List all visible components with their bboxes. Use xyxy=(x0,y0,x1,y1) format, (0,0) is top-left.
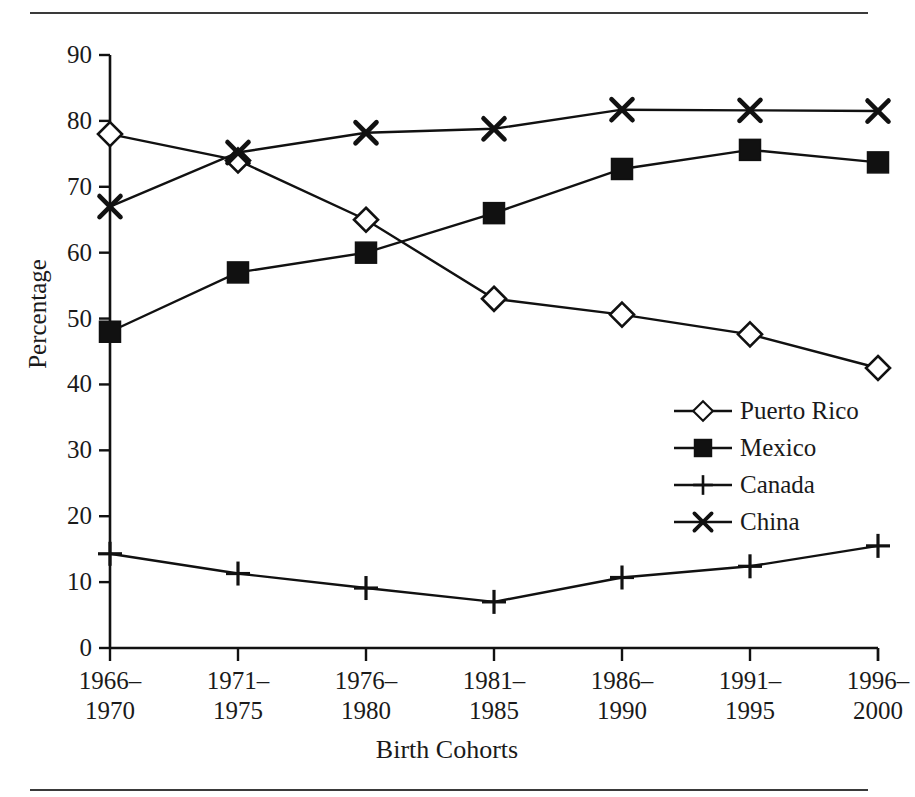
legend-marker-filled-square-icon xyxy=(672,433,734,463)
y-tick-label: 10 xyxy=(67,569,92,594)
marker-filled-square xyxy=(868,152,889,173)
x-category-label-line: 1991– xyxy=(690,666,810,696)
marker-plus xyxy=(610,565,634,589)
x-category-label: 1986–1990 xyxy=(562,666,682,725)
legend-marker-plus-icon xyxy=(672,470,734,500)
marker-open-diamond xyxy=(738,322,762,346)
marker-filled-square xyxy=(484,203,505,224)
marker-open-diamond xyxy=(693,401,713,421)
y-tick-label: 40 xyxy=(67,371,92,396)
marker-plus xyxy=(226,562,250,586)
x-category-label-line: 1996– xyxy=(818,666,915,696)
marker-filled-square xyxy=(228,262,249,283)
x-category-label: 1976–1980 xyxy=(306,666,426,725)
marker-plus xyxy=(354,576,378,600)
y-tick-label: 0 xyxy=(80,635,93,660)
x-category-label: 1966–1970 xyxy=(50,666,170,725)
legend-item-mexico[interactable]: Mexico xyxy=(672,429,859,466)
legend-label: Canada xyxy=(734,471,815,499)
x-category-label-line: 1990 xyxy=(562,696,682,726)
x-category-label: 1991–1995 xyxy=(690,666,810,725)
legend-item-puerto-rico[interactable]: Puerto Rico xyxy=(672,392,859,429)
series-line xyxy=(110,110,878,207)
series-china xyxy=(100,99,889,217)
x-category-label-line: 1975 xyxy=(178,696,298,726)
y-tick-label: 90 xyxy=(67,42,92,67)
marker-filled-square xyxy=(740,139,761,160)
y-axis-title: Percentage xyxy=(24,214,52,414)
marker-filled-square xyxy=(100,321,121,342)
chart-legend: Puerto RicoMexicoCanadaChina xyxy=(672,392,859,540)
marker-open-diamond xyxy=(482,287,506,311)
x-category-label-line: 1970 xyxy=(50,696,170,726)
marker-plus xyxy=(866,534,890,558)
y-tick-label: 50 xyxy=(67,306,92,331)
x-category-label: 1981–1985 xyxy=(434,666,554,725)
x-category-label: 1996–2000 xyxy=(818,666,915,725)
x-category-label-line: 1985 xyxy=(434,696,554,726)
marker-filled-square xyxy=(694,439,711,456)
x-category-label-line: 1995 xyxy=(690,696,810,726)
x-category-label-line: 1971– xyxy=(178,666,298,696)
marker-plus xyxy=(738,554,762,578)
legend-label: Puerto Rico xyxy=(734,397,859,425)
y-tick-label: 70 xyxy=(67,174,92,199)
marker-plus xyxy=(98,542,122,566)
x-category-label-line: 1986– xyxy=(562,666,682,696)
marker-filled-square xyxy=(612,158,633,179)
x-category-label-line: 1976– xyxy=(306,666,426,696)
x-category-label-line: 2000 xyxy=(818,696,915,726)
y-tick-label: 30 xyxy=(67,437,92,462)
x-category-label-line: 1981– xyxy=(434,666,554,696)
legend-label: Mexico xyxy=(734,434,816,462)
marker-plus xyxy=(693,475,713,495)
series-line xyxy=(110,134,878,368)
legend-item-china[interactable]: China xyxy=(672,503,859,540)
marker-open-diamond xyxy=(866,356,890,380)
y-tick-label: 60 xyxy=(67,240,92,265)
legend-item-canada[interactable]: Canada xyxy=(672,466,859,503)
legend-label: China xyxy=(734,508,800,536)
series-canada xyxy=(98,534,890,614)
x-category-label-line: 1980 xyxy=(306,696,426,726)
marker-open-diamond xyxy=(354,208,378,232)
y-tick-label: 20 xyxy=(67,503,92,528)
legend-marker-open-diamond-icon xyxy=(672,396,734,426)
marker-filled-square xyxy=(356,242,377,263)
x-category-label-line: 1966– xyxy=(50,666,170,696)
x-category-label: 1971–1975 xyxy=(178,666,298,725)
marker-plus xyxy=(482,590,506,614)
x-axis-title: Birth Cohorts xyxy=(0,735,894,765)
y-tick-label: 80 xyxy=(67,108,92,133)
marker-open-diamond xyxy=(98,122,122,146)
marker-open-diamond xyxy=(610,303,634,327)
legend-marker-cross-icon xyxy=(672,507,734,537)
